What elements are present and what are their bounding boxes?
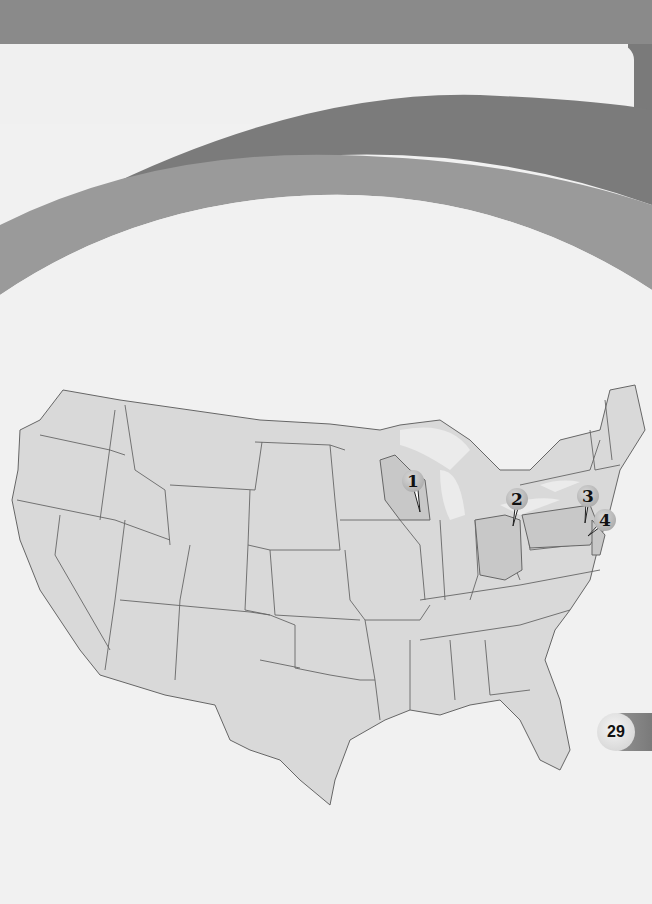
marker-label: 3 (582, 486, 594, 506)
ohio-highlight (475, 515, 522, 580)
map-marker-2[interactable]: 2 (506, 488, 528, 510)
map-marker-1[interactable]: 1 (402, 470, 424, 492)
map-marker-4[interactable]: 4 (594, 509, 616, 531)
marker-label: 4 (599, 510, 611, 530)
map-marker-3[interactable]: 3 (577, 485, 599, 507)
us-map-svg (0, 0, 652, 904)
marker-label: 1 (407, 471, 419, 491)
page-number: 29 (597, 713, 635, 751)
marker-label: 2 (511, 489, 523, 509)
us-map: 1 2 3 4 (0, 0, 652, 904)
page-number-label: 29 (607, 723, 625, 741)
